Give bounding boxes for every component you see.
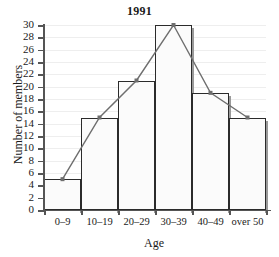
x-axis-line bbox=[43, 210, 271, 212]
x-axis-tick bbox=[229, 210, 231, 215]
y-axis-tick-label: 24 bbox=[12, 56, 34, 67]
y-axis-tick bbox=[38, 99, 44, 101]
bar[interactable] bbox=[229, 118, 266, 211]
x-axis-label: Age bbox=[38, 236, 270, 251]
plot-area bbox=[44, 25, 266, 210]
y-axis-tick bbox=[38, 173, 44, 175]
y-axis-tick bbox=[38, 111, 44, 113]
y-axis-tick bbox=[38, 185, 44, 187]
y-axis-tick-label: 20 bbox=[12, 81, 34, 92]
y-axis-tick bbox=[38, 74, 44, 76]
y-axis-tick-label: 26 bbox=[12, 44, 34, 55]
x-axis-tick bbox=[266, 210, 268, 215]
y-axis-tick-label: 0 bbox=[12, 204, 34, 215]
y-axis-tick bbox=[38, 50, 44, 52]
y-axis-tick-label: 18 bbox=[12, 93, 34, 104]
bar[interactable] bbox=[155, 25, 192, 210]
x-axis-tick bbox=[118, 210, 120, 215]
y-axis-tick bbox=[38, 148, 44, 150]
y-axis-tick-label: 12 bbox=[12, 130, 34, 141]
y-axis-tick bbox=[38, 25, 44, 27]
y-axis-tick-label: 16 bbox=[12, 105, 34, 116]
y-axis-tick-label: 14 bbox=[12, 118, 34, 129]
bar[interactable] bbox=[81, 118, 118, 211]
y-axis-tick bbox=[38, 87, 44, 89]
x-axis-tick bbox=[81, 210, 83, 215]
bar[interactable] bbox=[192, 93, 229, 210]
y-axis-tick-label: 28 bbox=[12, 31, 34, 42]
chart-figure: 1991 Number of members 02468101214161820… bbox=[0, 0, 279, 257]
x-axis-tick bbox=[155, 210, 157, 215]
y-axis-tick bbox=[38, 37, 44, 39]
bar[interactable] bbox=[44, 179, 81, 210]
y-axis-tick-label: 4 bbox=[12, 179, 34, 190]
y-axis-line bbox=[43, 24, 45, 211]
chart-title: 1991 bbox=[0, 4, 279, 19]
y-axis-tick-label: 10 bbox=[12, 142, 34, 153]
y-axis-tick-label: 6 bbox=[12, 167, 34, 178]
x-axis-tick bbox=[44, 210, 46, 215]
y-axis-tick-label: 2 bbox=[12, 192, 34, 203]
bar[interactable] bbox=[118, 81, 155, 211]
y-axis-tick bbox=[38, 198, 44, 200]
y-axis-tick-label: 8 bbox=[12, 155, 34, 166]
y-axis-tick bbox=[38, 161, 44, 163]
y-axis-tick bbox=[38, 62, 44, 64]
x-axis-tick-label: over 50 bbox=[223, 216, 272, 227]
y-axis-tick bbox=[38, 136, 44, 138]
y-axis-tick-label: 30 bbox=[12, 19, 34, 30]
y-axis-tick bbox=[38, 124, 44, 126]
x-axis-tick bbox=[192, 210, 194, 215]
y-axis-tick-label: 22 bbox=[12, 68, 34, 79]
